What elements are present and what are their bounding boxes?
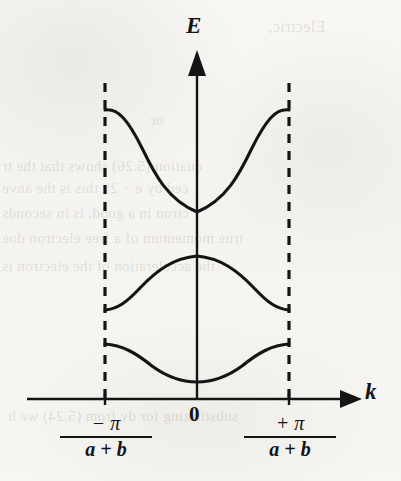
plot-canvas (0, 0, 401, 481)
energy-axis-label: E (186, 13, 201, 39)
wavevector-axis-label: k (365, 379, 377, 405)
tick-label-left-denominator: a + b (60, 436, 152, 461)
tick-label-right: + π a + b (244, 413, 336, 460)
band-diagram-figure: Electric,orquation (5.26) shows that the… (0, 0, 401, 481)
tick-label-right-denominator: a + b (244, 436, 336, 461)
tick-label-left: − π a + b (60, 413, 152, 460)
energy-axis (188, 50, 206, 399)
origin-tick-label: 0 (189, 402, 200, 427)
tick-label-right-numerator: + π (244, 413, 336, 436)
tick-label-left-numerator: − π (60, 413, 152, 436)
